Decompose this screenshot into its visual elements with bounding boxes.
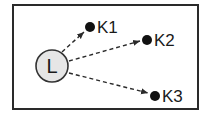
node-k1: K1 [85,18,118,37]
node-k3-dot [150,91,160,101]
node-k1-dot [85,22,95,32]
node-l-label: L [46,55,57,77]
node-l: L [36,50,68,82]
edge-l-k1 [62,32,84,52]
diagram-canvas: L K1 K2 K3 [0,0,209,126]
node-k3-label: K3 [162,87,183,106]
edge-l-k3 [69,73,148,93]
node-k2-label: K2 [154,31,175,50]
node-k1-label: K1 [97,18,118,37]
node-k2-dot [142,35,152,45]
node-k2: K2 [142,31,175,50]
node-k3: K3 [150,87,183,106]
edge-l-k2 [69,41,140,61]
